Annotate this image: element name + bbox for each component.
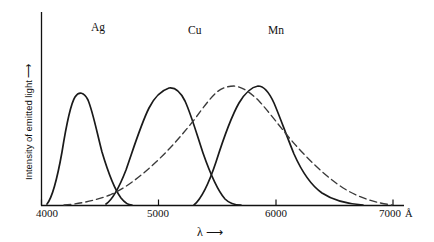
x-tick-label-6000: 6000 [265, 207, 288, 219]
x-tick-label-7000: 7000 [379, 207, 402, 219]
x-axis-title-group: λ ⟶ [197, 225, 223, 239]
curve-dashed-unlabeled [64, 86, 392, 205]
x-tick-label-5000: 5000 [147, 207, 170, 219]
emission-spectra-chart: 4000 5000 6000 7000 Å Ag Cu Mn λ ⟶ Inten… [0, 0, 434, 242]
x-axis-title: λ ⟶ [197, 225, 223, 239]
x-tick-label-4000: 4000 [36, 207, 59, 219]
axis-group [41, 12, 404, 206]
y-axis-title-group: Intensity of emitted light ⟶ [23, 64, 34, 180]
x-tick-labels: 4000 5000 6000 7000 Å [36, 207, 413, 219]
y-axis-title: Intensity of emitted light ⟶ [23, 64, 34, 180]
curve-ag [47, 93, 132, 205]
x-axis-unit-angstrom: Å [405, 208, 413, 219]
curve-label-ag: Ag [91, 21, 105, 34]
curve-label-cu: Cu [188, 24, 202, 36]
chart-canvas: 4000 5000 6000 7000 Å Ag Cu Mn λ ⟶ Inten… [0, 0, 434, 242]
curve-mn [194, 86, 363, 205]
curve-label-mn: Mn [268, 24, 284, 36]
